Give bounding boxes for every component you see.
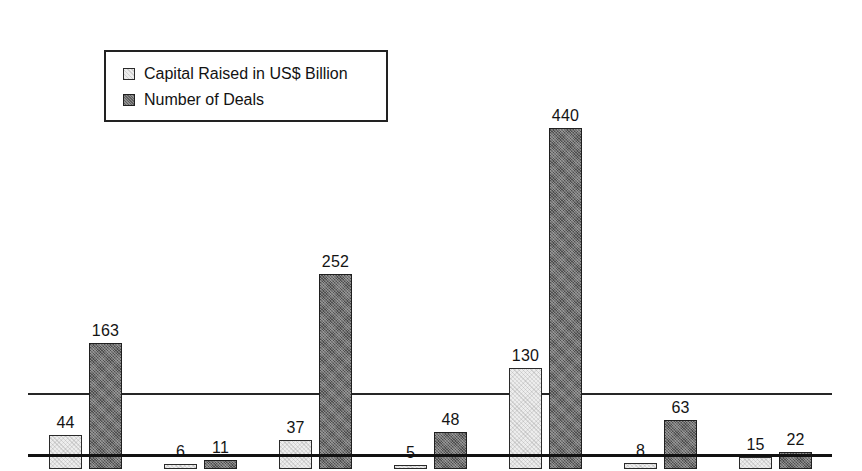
bar-capital-raised[interactable] <box>624 463 657 469</box>
bar-capital-raised[interactable] <box>394 465 427 469</box>
legend-label-number-of-deals: Number of Deals <box>144 92 264 108</box>
bar-number-of-deals-wrapper: 252 <box>319 274 352 469</box>
bar-capital-raised[interactable] <box>164 464 197 469</box>
bar-number-of-deals-value-label: 440 <box>552 108 579 124</box>
bar-group: 1522Japan <box>718 76 833 471</box>
bar-number-of-deals-value-label: 48 <box>441 412 459 428</box>
bar-number-of-deals-wrapper: 63 <box>664 420 697 469</box>
legend-swatch-light-icon <box>123 68 135 80</box>
bar-number-of-deals-value-label: 163 <box>92 323 119 339</box>
bar-number-of-deals[interactable] <box>319 274 352 469</box>
bar-group: 130440China <box>488 76 603 471</box>
bar-number-of-deals-wrapper: 11 <box>204 460 237 469</box>
bar-number-of-deals[interactable] <box>664 420 697 469</box>
bar-number-of-deals[interactable] <box>89 343 122 469</box>
bar-capital-raised-wrapper: 8 <box>624 463 657 469</box>
legend-swatch-dark-icon <box>123 94 135 106</box>
bar-group: 37252Europe <box>258 76 373 471</box>
bar-group: 548Middle East and Africa <box>373 76 488 471</box>
bar-capital-raised-value-label: 6 <box>176 444 185 460</box>
bar-capital-raised[interactable] <box>739 457 772 469</box>
bar-capital-raised-value-label: 15 <box>746 437 764 453</box>
bar-capital-raised-wrapper: 5 <box>394 465 427 469</box>
legend-entry-capital-raised: Capital Raised in US$ Billion <box>123 61 386 87</box>
bar-number-of-deals[interactable] <box>434 432 467 469</box>
bar-pair: 44163 <box>28 109 143 469</box>
bar-number-of-deals-value-label: 63 <box>671 400 689 416</box>
bar-pair: 863 <box>603 109 718 469</box>
bar-capital-raised[interactable] <box>49 435 82 469</box>
bar-number-of-deals-wrapper: 440 <box>549 128 582 469</box>
bar-capital-raised-value-label: 44 <box>56 415 74 431</box>
bar-chart: 44163US611Brazil37252Europe548Middle Eas… <box>0 0 862 471</box>
bar-pair: 130440 <box>488 109 603 469</box>
bottom-divider-rule <box>28 454 832 457</box>
chart-legend: Capital Raised in US$ Billion Number of … <box>104 50 388 122</box>
legend-label-capital-raised: Capital Raised in US$ Billion <box>144 66 348 82</box>
bar-pair: 611 <box>143 109 258 469</box>
legend-entry-number-of-deals: Number of Deals <box>123 87 386 113</box>
bar-capital-raised-wrapper: 15 <box>739 457 772 469</box>
bar-pair: 37252 <box>258 109 373 469</box>
bar-group: 863India <box>603 76 718 471</box>
bar-number-of-deals[interactable] <box>549 128 582 469</box>
bar-number-of-deals-value-label: 252 <box>322 254 349 270</box>
bar-capital-raised-wrapper: 6 <box>164 464 197 469</box>
bar-pair: 548 <box>373 109 488 469</box>
bar-number-of-deals-wrapper: 48 <box>434 432 467 469</box>
bar-capital-raised-value-label: 5 <box>406 445 415 461</box>
bar-group: 44163US <box>28 76 143 471</box>
bar-group: 611Brazil <box>143 76 258 471</box>
bar-number-of-deals-value-label: 22 <box>786 432 804 448</box>
bar-number-of-deals[interactable] <box>204 460 237 469</box>
bar-capital-raised-wrapper: 44 <box>49 435 82 469</box>
bar-number-of-deals-wrapper: 163 <box>89 343 122 469</box>
bar-capital-raised-value-label: 130 <box>512 348 539 364</box>
bar-capital-raised-value-label: 37 <box>286 420 304 436</box>
bar-pair: 1522 <box>718 109 833 469</box>
